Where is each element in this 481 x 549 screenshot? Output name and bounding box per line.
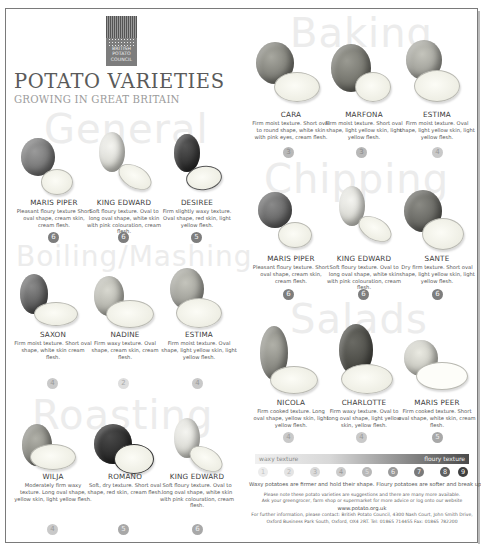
scale-step: 7: [414, 467, 424, 477]
potato-illustration: [85, 136, 163, 196]
texture-scale-bar: waxy texture floury texture: [255, 454, 469, 464]
footer-contact: For further information, please contact:…: [247, 512, 477, 518]
scale-step: 5: [362, 467, 372, 477]
page-subtitle: GROWING IN GREAT BRITAIN: [14, 94, 234, 105]
website-link[interactable]: www.potato.org.uk: [338, 505, 387, 511]
variety-card-desiree: DESIREE Firm slightly waxy texture. Oval…: [158, 136, 236, 228]
whole-potato-image: [174, 134, 200, 172]
variety-description: Firm waxy texture. Oval to long oval sha…: [325, 408, 403, 428]
texture-rating-badge: 4: [47, 524, 58, 535]
variety-card-king-edward-roasting: KING EDWARD Soft floury texture. Oval to…: [158, 426, 236, 509]
variety-description: Soft floury texture. Oval to long oval s…: [158, 482, 236, 509]
potato-illustration: [158, 426, 236, 486]
cut-potato-image: [355, 72, 391, 102]
cut-potato-image: [176, 298, 222, 328]
scale-step: 2: [284, 467, 294, 477]
section-heading-boiling: Boiling/Mashing: [16, 240, 253, 273]
texture-rating-badge: 6: [432, 289, 443, 300]
texture-rating-badge: 4: [432, 147, 443, 158]
texture-rating-badge: 2: [118, 378, 129, 389]
scale-step: 8: [440, 467, 450, 477]
potato-illustration: [398, 42, 476, 102]
texture-rating-badge: 5: [118, 524, 129, 535]
cut-potato-image: [414, 70, 460, 102]
variety-name: NICOLA: [252, 398, 330, 407]
cut-potato-image: [30, 444, 76, 470]
variety-name: MARIS PEER: [398, 398, 476, 407]
footer-advice: Ask your greengrocer, farm shop or super…: [247, 498, 477, 512]
scale-step: 4: [336, 467, 346, 477]
variety-card-maris-piper-chipping: MARIS PIPER Pleasant floury texture. Sho…: [252, 192, 330, 284]
variety-card-cara: CARA Firm moist texture. Short oval to r…: [252, 42, 330, 140]
variety-description: Soft floury texture. Oval to long oval s…: [325, 264, 403, 291]
footer-info: Please note these potato varieties are s…: [247, 492, 477, 525]
potato-illustration: [86, 282, 164, 342]
potato-illustration: [14, 282, 92, 342]
potato-illustration: [86, 426, 164, 486]
footer-advice-text: Ask your greengrocer, farm shop or super…: [262, 498, 463, 503]
variety-description: Firm cooked texture. Short oval shape, w…: [398, 408, 476, 428]
variety-name: MARIS PIPER: [252, 254, 330, 263]
scale-step: 3: [310, 467, 320, 477]
cut-potato-image: [41, 169, 73, 195]
variety-description: Dry firm texture. Short oval shape, ligh…: [398, 264, 476, 284]
variety-card-charlotte: CHARLOTTE Firm waxy texture. Oval to lon…: [325, 326, 403, 428]
potato-illustration: [325, 42, 403, 102]
variety-card-nicola: NICOLA Firm cooked texture. Long oval sh…: [252, 326, 330, 428]
variety-card-king-edward: KING EDWARD Soft floury texture. Oval to…: [85, 136, 163, 235]
logo-line: COUNCIL: [106, 57, 137, 62]
variety-name: ESTIMA: [398, 110, 476, 119]
waxy-texture-label: waxy texture: [259, 455, 298, 462]
texture-rating-badge: 4: [356, 432, 367, 443]
variety-card-maris-piper: MARIS PIPER Pleasant floury texture Shor…: [15, 136, 93, 228]
variety-description: Pleasant floury texture. Short oval shap…: [252, 264, 330, 284]
variety-description: Firm moist texture. Oval shape, light ye…: [160, 340, 238, 360]
variety-name: KING EDWARD: [325, 254, 403, 263]
variety-description: Pleasant floury texture Short oval shape…: [15, 208, 93, 228]
cut-potato-image: [270, 366, 318, 394]
cut-potato-image: [114, 444, 154, 474]
page-title: POTATO VARIETIES: [14, 70, 234, 93]
variety-name: CARA: [252, 110, 330, 119]
scale-step: 6: [388, 467, 398, 477]
variety-card-marfona: MARFONA Firm moist texture. Short oval s…: [325, 42, 403, 140]
variety-description: Firm moist texture. Oval shape, light ye…: [398, 120, 476, 140]
variety-name: CHARLOTTE: [325, 398, 403, 407]
texture-rating-badge: 6: [283, 289, 294, 300]
potato-illustration: [252, 42, 330, 102]
variety-description: Firm moist texture. Short oval shape, li…: [325, 120, 403, 140]
cut-potato-image: [106, 300, 154, 328]
variety-card-estima-baking: ESTIMA Firm moist texture. Oval shape, l…: [398, 42, 476, 140]
variety-name: KING EDWARD: [85, 198, 163, 207]
potato-illustration: [325, 326, 403, 396]
variety-description: Soft floury texture. Oval to long oval s…: [85, 208, 163, 235]
potato-illustration: [325, 192, 403, 252]
potato-illustration: [15, 136, 93, 196]
potato-illustration: [14, 426, 92, 486]
variety-card-romano: ROMANO Soft, dry texture. Short oval sha…: [86, 426, 164, 496]
texture-rating-badge: 6: [48, 232, 59, 243]
cut-potato-image: [274, 72, 320, 102]
cut-potato-image: [278, 222, 312, 248]
variety-description: Firm slightly waxy texture. Oval shape, …: [158, 208, 236, 228]
floury-texture-label: floury texture: [424, 455, 465, 462]
texture-scale-steps: 1 2 3 4 5 6 7 8 9: [256, 467, 468, 478]
variety-name: SANTE: [398, 254, 476, 263]
texture-rating-badge: 4: [47, 378, 58, 389]
footer-address: Oxford Business Park South, Oxford, OX4 …: [247, 519, 477, 525]
variety-card-king-edward-chipping: KING EDWARD Soft floury texture. Oval to…: [325, 192, 403, 291]
variety-name: DESIREE: [158, 198, 236, 207]
texture-rating-badge: 3: [356, 147, 367, 158]
cut-potato-image: [422, 218, 464, 250]
potato-illustration: [252, 326, 330, 396]
scale-step: 9: [458, 467, 468, 477]
texture-rating-badge: 6: [192, 524, 203, 535]
texture-rating-badge: 3: [283, 147, 294, 158]
british-potato-council-logo: BRITISH POTATO COUNCIL: [106, 16, 137, 66]
variety-card-wilja: WILJA Moderately firm waxy texture. Long…: [14, 426, 92, 502]
potato-illustration: [398, 192, 476, 252]
texture-rating-badge: 4: [283, 432, 294, 443]
variety-card-nadine: NADINE Firm waxy texture. Oval shape, cr…: [86, 282, 164, 360]
variety-card-estima: ESTIMA Firm moist texture. Oval shape, l…: [160, 282, 238, 360]
variety-description: Firm cooked texture. Long oval shape, ye…: [252, 408, 330, 428]
